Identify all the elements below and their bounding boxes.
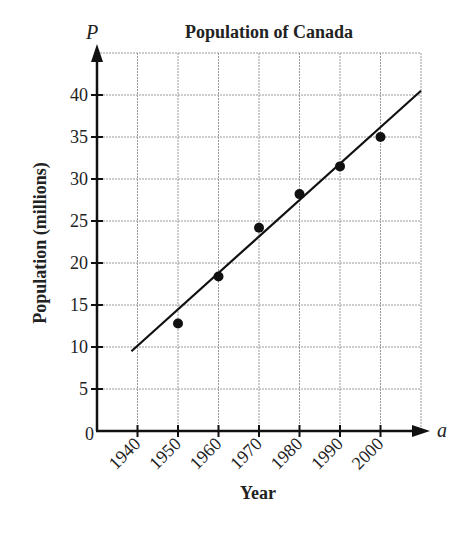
y-tick-label: 30 <box>70 169 88 189</box>
y-tick-label: 25 <box>70 211 88 231</box>
data-points <box>173 132 386 328</box>
x-tick-label: 1960 <box>186 434 226 474</box>
gridlines <box>97 53 421 431</box>
x-tick-label: 1980 <box>267 434 307 474</box>
y-axis-label: Population (millions) <box>30 162 51 324</box>
x-tick-label: 1940 <box>105 434 145 474</box>
data-point <box>173 318 183 328</box>
x-tick-label: 2000 <box>348 434 388 474</box>
x-tick-label: 1990 <box>307 434 347 474</box>
data-point <box>295 189 305 199</box>
data-point <box>254 223 264 233</box>
y-tick-label: 20 <box>70 253 88 273</box>
y-tick-label: 15 <box>70 295 88 315</box>
x-tick-label: 1970 <box>226 434 266 474</box>
population-chart: Population of Canada P a 051015202530354… <box>0 0 456 539</box>
axes <box>91 44 430 437</box>
y-tick-label: 0 <box>85 424 94 444</box>
y-tick-label: 5 <box>79 379 88 399</box>
data-point <box>335 161 345 171</box>
chart-title: Population of Canada <box>185 22 353 42</box>
y-axis-variable: P <box>85 21 98 43</box>
data-point <box>376 132 386 142</box>
data-point <box>214 271 224 281</box>
x-tick-label: 1950 <box>145 434 185 474</box>
x-axis-variable: a <box>437 419 447 441</box>
y-tick-label: 40 <box>70 85 88 105</box>
y-tick-label: 35 <box>70 127 88 147</box>
x-axis-label: Year <box>240 483 276 503</box>
y-tick-label: 10 <box>70 337 88 357</box>
